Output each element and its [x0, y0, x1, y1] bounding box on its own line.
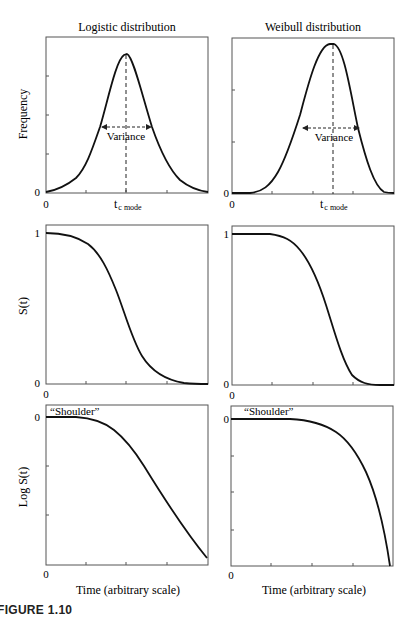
y-tick-zero: 0 [35, 377, 41, 389]
y-tick-zero: 0 [35, 411, 41, 423]
plot-weibull-frequency: Variance 0 0 tc mode [224, 38, 395, 212]
logistic-log-survival-curve [46, 417, 207, 558]
ylabel-survival: S(t) [16, 297, 30, 315]
x-tick-zero: 0 [43, 388, 49, 400]
variance-label: Variance [315, 131, 354, 143]
mode-label: tc mode [114, 197, 142, 212]
x-tick-zero: 0 [229, 198, 235, 210]
mode-label: tc mode [320, 197, 348, 212]
shoulder-annotation: “Shoulder” [50, 405, 100, 417]
plot-weibull-survival: 1 0 0 [224, 226, 395, 401]
weibull-survival-curve [232, 234, 394, 385]
logistic-survival-curve [46, 233, 208, 384]
weibull-pdf-curve [232, 44, 394, 193]
plot-logistic-log-survival: “Shoulder” 0 0 [35, 405, 209, 580]
logistic-pdf-curve [46, 54, 208, 192]
shoulder-annotation: “Shoulder” [244, 405, 294, 417]
xlabel-time-left: Time (arbitrary scale) [76, 583, 180, 597]
xlabel-time-right: Time (arbitrary scale) [262, 583, 366, 597]
y-tick-one: 1 [224, 228, 230, 240]
ylabel-log-survival: Log S(t) [16, 467, 30, 507]
x-tick-zero: 0 [43, 198, 49, 210]
y-tick-one: 1 [35, 227, 41, 239]
column-title-logistic: Logistic distribution [78, 20, 176, 34]
y-tick-zero: 0 [35, 186, 41, 198]
y-tick-zero: 0 [224, 413, 230, 425]
x-tick-zero: 0 [43, 568, 49, 580]
column-title-weibull: Weibull distribution [265, 20, 361, 34]
plot-logistic-survival: 1 0 0 [35, 225, 209, 400]
x-tick-zero: 0 [228, 569, 234, 581]
plot-weibull-log-survival: “Shoulder” 0 0 [224, 405, 394, 581]
ylabel-frequency: Frequency [16, 89, 30, 140]
x-tick-zero: 0 [229, 389, 235, 401]
weibull-log-survival-curve [231, 419, 390, 566]
figure-canvas: Logistic distribution Weibull distributi… [0, 0, 416, 617]
variance-label: Variance [107, 130, 146, 142]
figure-caption: FIGURE 1.10 [0, 603, 72, 617]
plot-logistic-frequency: Variance 0 0 tc mode [35, 37, 209, 212]
